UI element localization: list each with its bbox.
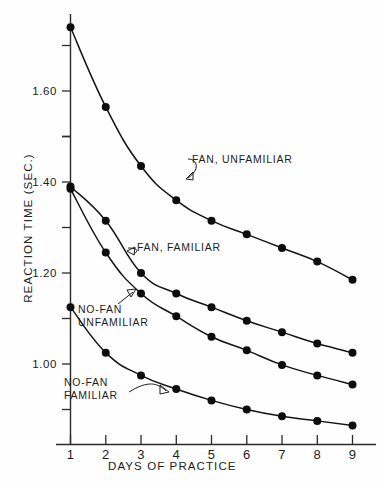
data-point	[278, 412, 286, 420]
y-tick-label-1: 1.40	[32, 176, 57, 188]
data-point	[67, 23, 75, 31]
data-point	[172, 385, 180, 393]
data-point	[137, 269, 145, 277]
leader-fan-familiar	[128, 248, 137, 254]
data-point	[67, 303, 75, 311]
y-tick-label-0: 1.60	[32, 85, 57, 97]
data-point	[349, 380, 357, 388]
reaction-time-practice-chart: 1.60 1.40 1.20 1.00 1 2 3 4 5 6 7 8	[0, 0, 383, 482]
ann-nofan-familiar-line2: FAMILIAR	[64, 389, 118, 401]
data-point	[208, 396, 216, 404]
y-tick-label-2: 1.20	[32, 267, 57, 279]
y-tick-label-3: 1.00	[32, 358, 57, 370]
data-point	[102, 349, 110, 357]
ann-nofan-familiar-line1: NO-FAN	[64, 376, 108, 388]
data-point	[243, 406, 251, 414]
data-point	[172, 289, 180, 297]
data-point	[243, 346, 251, 354]
chart-canvas: 1.60 1.40 1.20 1.00 1 2 3 4 5 6 7 8	[0, 0, 383, 482]
x-tick-label-5: 6	[243, 447, 251, 462]
annotation-labels: FAN, UNFAMILIAR FAN, FAMILIAR NO-FAN UNF…	[64, 153, 293, 401]
y-axis-title: REACTION TIME (SEC.)	[22, 148, 34, 308]
data-point	[67, 185, 75, 193]
y-tick-marks	[62, 46, 71, 410]
x-tick-label-6: 7	[278, 447, 286, 462]
data-point	[278, 328, 286, 336]
x-tick-marks	[71, 435, 353, 445]
data-point	[349, 276, 357, 284]
data-point	[278, 361, 286, 369]
ann-nofan-unfamiliar-line1: NO-FAN	[78, 303, 122, 315]
data-series-layer	[67, 23, 357, 429]
data-point	[278, 244, 286, 252]
data-point	[313, 371, 321, 379]
x-tick-label-0: 1	[67, 447, 75, 462]
data-point	[172, 196, 180, 204]
data-point	[102, 217, 110, 225]
data-point	[349, 421, 357, 429]
data-point	[102, 103, 110, 111]
ann-fan-unfamiliar: FAN, UNFAMILIAR	[192, 153, 293, 165]
x-tick-label-7: 8	[313, 447, 321, 462]
data-point	[137, 162, 145, 170]
data-point	[349, 349, 357, 357]
series-1	[67, 183, 357, 357]
x-tick-label-8: 9	[349, 447, 357, 462]
data-point	[102, 249, 110, 257]
data-point	[313, 258, 321, 266]
data-point	[137, 289, 145, 297]
annotation-leaders	[118, 159, 196, 394]
data-point	[313, 340, 321, 348]
data-point	[243, 317, 251, 325]
data-point	[208, 303, 216, 311]
data-point	[208, 333, 216, 341]
data-point	[137, 371, 145, 379]
data-point	[313, 417, 321, 425]
leader-arrow-fan-unfamiliar	[186, 172, 193, 180]
data-point	[172, 312, 180, 320]
series-2	[67, 185, 357, 389]
y-tick-labels: 1.60 1.40 1.20 1.00	[32, 85, 57, 370]
ann-nofan-unfamiliar-line2: UNFAMILIAR	[78, 316, 149, 328]
data-point	[243, 230, 251, 238]
ann-fan-familiar: FAN, FAMILIAR	[137, 241, 221, 253]
x-axis-title: DAYS OF PRACTICE	[108, 460, 237, 472]
data-point	[208, 217, 216, 225]
